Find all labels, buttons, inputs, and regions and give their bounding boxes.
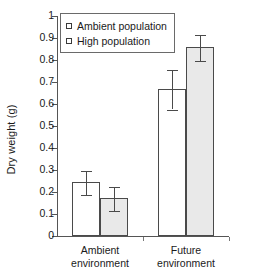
error-bar-line — [114, 187, 115, 211]
y-axis-tick-label: 0.5 — [24, 119, 54, 132]
y-axis-title: Dry weight (g) — [0, 0, 22, 279]
error-bar-cap-lower — [81, 195, 92, 196]
bar — [186, 47, 214, 236]
legend-box: Ambient populationHigh population — [60, 13, 175, 53]
x-axis-category-label: Ambient environment — [57, 244, 143, 270]
error-bar-cap-lower — [167, 110, 178, 111]
legend-item: Ambient population — [66, 18, 167, 33]
error-bar-cap-upper — [195, 35, 206, 36]
y-axis-tick-label: 1 — [24, 9, 54, 22]
y-axis-tick-label: 0.8 — [24, 53, 54, 66]
y-axis-tick-label: 0.9 — [24, 31, 54, 44]
error-bar-line — [86, 171, 87, 195]
legend-item-label: Ambient population — [77, 20, 167, 32]
y-axis-tick-label: 0.2 — [24, 185, 54, 198]
x-axis-category-label: Future environment — [143, 244, 229, 270]
error-bar-cap-upper — [109, 187, 120, 188]
legend-swatch-square-icon — [66, 23, 72, 29]
legend-item: High population — [66, 33, 167, 48]
y-axis-tick-label: 0.4 — [24, 141, 54, 154]
y-axis-line — [57, 16, 58, 237]
y-axis-tick-label: 0.7 — [24, 75, 54, 88]
y-axis-tick-label: 0 — [24, 229, 54, 242]
error-bar-line — [172, 70, 173, 110]
legend-swatch-square-icon — [66, 38, 72, 44]
error-bar-cap-lower — [109, 211, 120, 212]
legend-item-label: High population — [77, 35, 150, 47]
y-axis-tick-label: 0.1 — [24, 207, 54, 220]
y-axis-tick-label: 0.3 — [24, 163, 54, 176]
bar-chart-figure: Dry weight (g) 00.10.20.30.40.50.60.70.8… — [0, 0, 258, 279]
error-bar-cap-upper — [167, 70, 178, 71]
error-bar-cap-lower — [195, 61, 206, 62]
y-axis-tick-label: 0.6 — [24, 97, 54, 110]
x-axis-tick — [143, 237, 144, 241]
bar — [158, 89, 186, 236]
error-bar-line — [200, 35, 201, 61]
x-axis-tick — [229, 237, 230, 241]
error-bar-cap-upper — [81, 171, 92, 172]
